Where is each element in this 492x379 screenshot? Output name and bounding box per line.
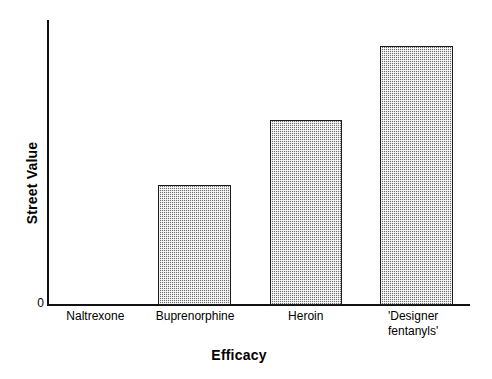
x-axis-label-buprenorphine: Buprenorphine — [135, 309, 255, 324]
x-axis-label-designer-fentanyls: 'Designer fentanyls' — [353, 309, 473, 339]
bar-slot-buprenorphine — [158, 20, 231, 305]
plot-area — [49, 20, 470, 305]
bar-slot-heroin — [270, 20, 342, 305]
x-axis-label-heroin: Heroin — [246, 309, 366, 324]
bar-slot-naltrexone — [49, 20, 122, 305]
y-axis-title: Street Value — [24, 113, 40, 253]
bar-slot-designer-fentanyls — [380, 20, 453, 305]
bar-buprenorphine — [158, 185, 231, 305]
x-axis-title: Efficacy — [0, 347, 478, 363]
x-axis-category-labels: Naltrexone Buprenorphine Heroin 'Designe… — [49, 309, 470, 349]
y-axis-tick-label-zero: 0 — [26, 296, 44, 310]
bar-heroin — [270, 120, 342, 305]
bar-designer-fentanyls — [380, 46, 453, 305]
bar-chart-figure: 0 Street Value Naltrexone Buprenorphine … — [0, 0, 492, 379]
